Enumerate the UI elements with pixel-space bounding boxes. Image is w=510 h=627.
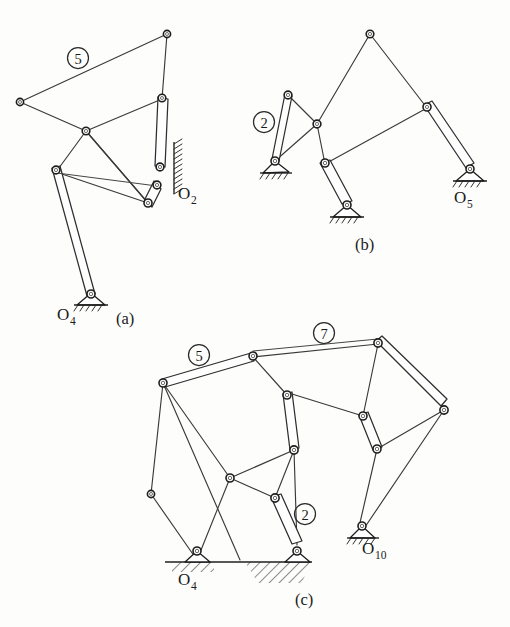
pin-c-mid-upper (283, 391, 291, 399)
link-label-5-c: 5 (189, 345, 210, 366)
link-5-bar-c (162, 353, 254, 387)
ground-label-O10-sub: 10 (375, 549, 387, 561)
pin-c-frame-left (147, 490, 154, 497)
pin-b-apex (366, 30, 374, 38)
caption-a: (a) (116, 309, 134, 328)
link-label-5-a: 5 (68, 48, 89, 69)
coupler-quad-b (317, 34, 427, 164)
pin-c-ternary-left (226, 474, 234, 482)
subfigure-b: 2 O 5 (b) (254, 30, 488, 254)
pin-b-link2-top (284, 91, 292, 99)
pin-c-link2-top (271, 494, 279, 502)
link-label-7-c-text: 7 (320, 326, 327, 342)
right-upper-left-link-c (363, 344, 378, 416)
link-label-7-c: 7 (314, 323, 335, 344)
link-label-2-c: 2 (295, 504, 316, 525)
link-7-bar-c (253, 339, 378, 357)
ground-label-O4-a: O 4 (57, 305, 76, 327)
caption-b: (b) (355, 235, 374, 254)
link-2-bar-b (272, 94, 292, 161)
left-ternary-c (163, 383, 230, 478)
pin-c-link5-left (159, 379, 167, 387)
mechanism-figure: 5 O 2 O 4 (a) (0, 0, 510, 627)
ground-label-O5-letter: O (454, 188, 466, 207)
pin-a-mid (82, 127, 90, 135)
pin-a-O2 (153, 181, 161, 189)
right-diagonal-bar-c (376, 336, 447, 406)
ground-label-O4-sub: 4 (70, 315, 76, 327)
pin-b-mid-top (321, 159, 329, 167)
ground-label-O2-letter: O (178, 184, 190, 203)
caption-c: (c) (295, 590, 313, 609)
ground-label-O4-c-letter: O (178, 570, 190, 589)
pin-c-mid-lower (290, 446, 298, 454)
pin-c-O10 (358, 522, 366, 530)
ground-label-O2-a: O 2 (178, 184, 197, 206)
pin-b-mid-ground (343, 201, 351, 209)
right-long-link-to-O10-c (365, 410, 444, 527)
ground-label-O4-c: O 4 (178, 570, 197, 592)
pin-c-link5-right (249, 352, 257, 360)
pin-c-right-lower (373, 445, 381, 453)
joint-pins-a (16, 30, 170, 298)
connector-link-a1 (57, 173, 157, 186)
pin-a-O4 (87, 290, 95, 298)
pin-a-left (16, 98, 23, 105)
link-label-2-b: 2 (254, 112, 275, 133)
pin-c-link7-right (374, 339, 382, 347)
ground-label-O4-c-sub: 4 (191, 580, 197, 592)
ground-label-O5-b: O 5 (454, 188, 473, 210)
ternary-link-a (56, 131, 148, 203)
pin-b-quad-left (313, 120, 321, 128)
ground-label-O10-c: O 10 (362, 539, 387, 561)
left-frame-c (151, 383, 240, 560)
subfigure-c: 5 7 2 O 4 O 10 (c) (147, 323, 448, 610)
ground-label-O5-sub: 5 (467, 198, 473, 210)
link-5-plate-a (20, 34, 167, 131)
ground-hatch-right-c (245, 562, 310, 583)
pin-c-right-far (440, 406, 448, 414)
mid-ternary-plate-c (230, 450, 294, 498)
pin-a-slider-low (156, 163, 164, 171)
link-label-5-a-text: 5 (74, 51, 81, 67)
mid-vertical-bar-c (283, 392, 299, 450)
mid-upper-link-c (253, 357, 287, 395)
ground-label-O2-sub: 2 (191, 194, 197, 206)
ground-label-O4-letter: O (57, 305, 69, 324)
vertical-bar-a (155, 97, 168, 167)
pin-c-O4 (193, 547, 201, 555)
right-lower-cross-link-c (377, 410, 444, 449)
right-link-to-O10-c (359, 449, 377, 527)
subfigure-a: 5 O 2 O 4 (a) (16, 30, 197, 328)
ground-label-O10-letter: O (362, 539, 374, 558)
pin-c-slider (293, 547, 301, 555)
pin-a-plate-right (158, 94, 166, 102)
pin-a-lower (144, 199, 152, 207)
pin-c-right-upper (359, 412, 367, 420)
mid-to-right-link-c (292, 394, 363, 416)
link-label-2-c-text: 2 (301, 507, 308, 523)
rocker-to-O4-a (52, 166, 95, 296)
pin-b-O5 (466, 165, 474, 173)
ternary-to-O4-link-c (197, 478, 230, 560)
figure-sheet: 5 O 2 O 4 (a) (0, 0, 510, 627)
pin-b-link2-ground (271, 157, 279, 165)
link-label-5-c-text: 5 (195, 348, 202, 364)
right-rocker-bar-b (424, 101, 474, 168)
link-label-2-b-text: 2 (260, 115, 267, 131)
pin-b-right-top (423, 103, 431, 111)
pin-a-ternary-left (52, 166, 60, 174)
pin-a-top (163, 30, 170, 37)
